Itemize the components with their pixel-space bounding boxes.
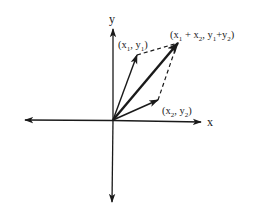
y-axis-label: y: [109, 12, 115, 26]
label-v1: (x1, y1): [118, 39, 148, 53]
x-axis-label: x: [207, 115, 213, 129]
vector-addition-diagram: y x (x1, y1) (x1 + x2, y1+y2) (x2, y2): [0, 0, 253, 219]
label-sum: (x1 + x2, y1+y2): [170, 29, 235, 43]
x-axis: [25, 120, 113, 121]
label-v2: (x2, y2): [162, 105, 192, 119]
x-axis-positive: [113, 121, 201, 123]
y-axis-negative: [112, 120, 113, 202]
